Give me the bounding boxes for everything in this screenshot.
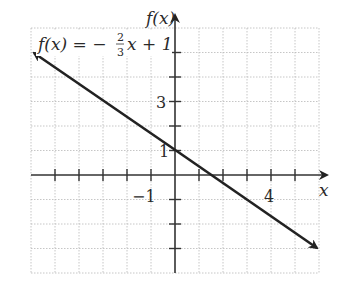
svg-text:3: 3	[117, 46, 124, 59]
x-axis-label: x	[319, 180, 329, 200]
y-tick-label-3: 3	[156, 93, 166, 112]
y-tick-label-1: 1	[159, 142, 169, 161]
svg-text:x + 1: x + 1	[127, 34, 172, 54]
svg-text:2: 2	[117, 31, 124, 44]
x-tick-label-neg1: −1	[132, 187, 156, 206]
svg-text:f(x) = −: f(x) = −	[36, 34, 106, 54]
y-axis-label: f(x)	[144, 8, 175, 28]
x-tick-label-4: 4	[264, 187, 274, 206]
function-equation-label: f(x) = − 2 3 x + 1	[36, 30, 172, 59]
function-graph: f(x) x 3 1 −1 4 f(x) = − 2 3 x + 1	[0, 0, 347, 294]
